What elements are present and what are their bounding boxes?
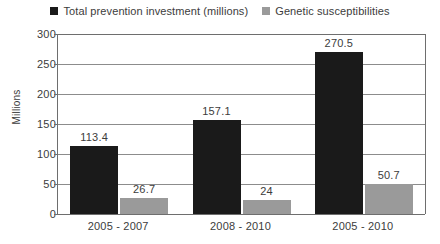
chart-legend: Total prevention investment (millions) G…: [0, 2, 440, 20]
y-tick-label-300: 300: [16, 29, 56, 40]
y-tick-label-200: 200: [16, 89, 56, 100]
bar-value-label: 24: [260, 185, 273, 197]
legend-swatch-black: [50, 7, 58, 15]
y-tick-mark-0: [54, 214, 58, 215]
y-tick-label-0: 0: [16, 209, 56, 220]
bar-genetic-susceptibilities-2: 50.7: [365, 184, 413, 214]
bar-value-label: 113.4: [80, 131, 108, 143]
bar-genetic-susceptibilities-1: 24: [243, 200, 291, 214]
x-label-0: 2005 - 2007: [57, 220, 179, 233]
x-label-1: 2008 - 2010: [179, 220, 301, 233]
legend-label-genetic-susceptibilities: Genetic susceptibilities: [275, 5, 389, 17]
bar-total-prevention-investment-0: 113.4: [70, 146, 118, 214]
y-tick-label-50: 50: [16, 179, 56, 190]
bar-genetic-susceptibilities-0: 26.7: [120, 198, 168, 214]
legend-swatch-gray: [262, 7, 270, 15]
bars-layer: 113.426.7157.124270.550.7: [58, 34, 425, 214]
legend-label-total-prevention-investment: Total prevention investment (millions): [63, 5, 248, 17]
bar-chart: Total prevention investment (millions) G…: [0, 0, 440, 244]
bar-value-label: 157.1: [202, 105, 231, 117]
legend-entry-total-prevention-investment: Total prevention investment (millions): [50, 5, 248, 17]
bar-value-label: 50.7: [378, 169, 400, 181]
x-label-2: 2005 - 2010: [302, 220, 424, 233]
bar-total-prevention-investment-1: 157.1: [193, 120, 241, 214]
bar-value-label: 26.7: [133, 183, 155, 195]
y-tick-label-250: 250: [16, 59, 56, 70]
plot-area: 113.426.7157.124270.550.7: [57, 34, 425, 215]
bar-value-label: 270.5: [325, 37, 354, 49]
y-axis-title: Millions: [10, 72, 24, 142]
bar-total-prevention-investment-2: 270.5: [315, 52, 363, 214]
y-tick-label-100: 100: [16, 149, 56, 160]
y-tick-label-150: 150: [16, 119, 56, 130]
legend-entry-genetic-susceptibilities: Genetic susceptibilities: [262, 5, 389, 17]
plot-right-edge: [425, 34, 426, 214]
